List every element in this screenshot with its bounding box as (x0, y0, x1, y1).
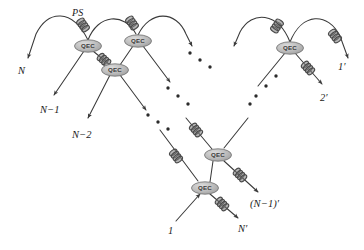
qec-node-label: QEC (131, 37, 145, 44)
ellipsis-dot (274, 74, 277, 77)
output-label-n-minus-1-prime: (N−1)′ (250, 199, 279, 210)
output-label-1-prime: 1′ (338, 62, 346, 73)
ellipsis-dot (248, 102, 251, 105)
line-qec2-qec3 (120, 46, 133, 65)
coil-icon (327, 28, 342, 44)
input-label-1: 1 (168, 226, 173, 237)
coil-icon (270, 18, 285, 34)
ellipsis-dot (176, 94, 179, 97)
input-label-n-minus-1: N−1 (40, 105, 60, 116)
output-label-2-prime: 2′ (320, 93, 328, 104)
coil-icon (168, 148, 183, 164)
line-qec5-qec6 (210, 161, 213, 182)
qec-node[interactable]: QEC (125, 35, 152, 47)
qec-node-label: QEC (198, 184, 212, 191)
ellipsis-dot (188, 51, 191, 54)
coil-icon (76, 17, 91, 33)
qec-node[interactable]: QEC (192, 182, 219, 194)
ellipsis-dot (156, 120, 159, 123)
line-qec2-dots (143, 46, 170, 82)
ellipsis-dot (264, 84, 267, 87)
ellipsis-dot (198, 58, 201, 61)
qec-node-label: QEC (81, 42, 95, 49)
qec-node[interactable]: QEC (75, 40, 102, 52)
coil-icon (125, 15, 140, 31)
line-qec3-dots (120, 75, 146, 110)
ellipsis-dot (166, 86, 169, 89)
diagram-canvas: QEC QEC QEC QEC QEC QEC (0, 0, 364, 250)
qec-node[interactable]: QEC (277, 42, 304, 54)
line-into-qec5-right (224, 118, 248, 148)
qec-node-label: QEC (108, 66, 122, 73)
output-label-n-prime: N′ (238, 224, 248, 235)
line-qec4-downleft (258, 53, 285, 86)
line-qec1-n1 (54, 51, 84, 95)
line-qec3-n2 (88, 75, 110, 118)
ellipsis-dot (166, 127, 169, 130)
input-label-n: N (18, 66, 25, 77)
ps-label: PS (72, 8, 83, 18)
ellipsis-dot (254, 94, 257, 97)
line-input1-qec6 (176, 194, 200, 221)
ellipsis-dot (208, 65, 211, 68)
qec-node[interactable]: QEC (205, 149, 232, 161)
ellipsis-dot (146, 113, 149, 116)
qec-network-diagram: QEC QEC QEC QEC QEC QEC (0, 0, 364, 250)
qec-node-label: QEC (283, 44, 297, 51)
qec-node[interactable]: QEC (102, 64, 129, 76)
ellipsis-group (146, 51, 277, 130)
input-label-n-minus-2: N−2 (72, 130, 92, 141)
ellipsis-dot (186, 102, 189, 105)
qec-node-label: QEC (211, 151, 225, 158)
